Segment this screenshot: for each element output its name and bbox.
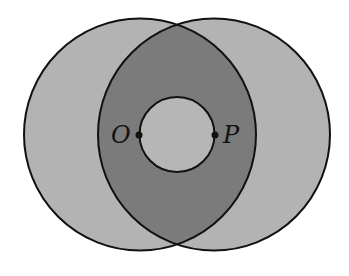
point-P (212, 132, 219, 139)
circle-OP (140, 97, 215, 172)
point-O (136, 132, 143, 139)
diagram-canvas: O P (0, 0, 349, 276)
label-O: O (111, 121, 131, 149)
label-P: P (222, 121, 240, 149)
